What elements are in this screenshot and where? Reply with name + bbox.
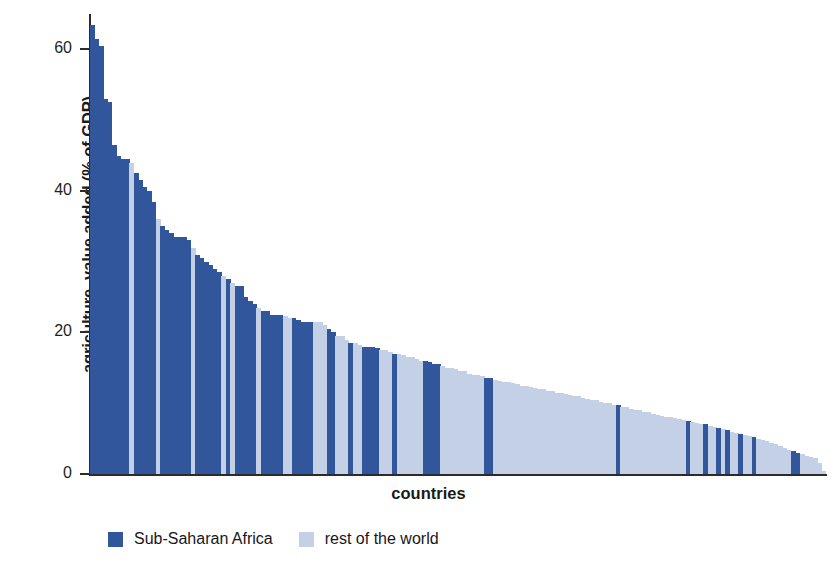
y-axis-tick-mark bbox=[80, 331, 90, 333]
x-axis-line bbox=[89, 474, 827, 476]
y-axis-tick-mark bbox=[80, 190, 90, 192]
legend-swatch-rest-of-the-world bbox=[299, 532, 314, 547]
legend-item-sub-saharan-africa: Sub-Saharan Africa bbox=[108, 530, 273, 548]
chart-legend: Sub-Saharan Africa rest of the world bbox=[108, 530, 439, 548]
legend-item-rest-of-the-world: rest of the world bbox=[299, 530, 439, 548]
x-axis-title: countries bbox=[0, 484, 839, 503]
y-axis-tick-mark bbox=[80, 473, 90, 475]
legend-label-rest-of-the-world: rest of the world bbox=[325, 530, 439, 548]
y-axis-tick-label-text: 40 bbox=[32, 182, 72, 198]
y-axis-tick-label: 60 bbox=[22, 40, 72, 56]
bar bbox=[822, 471, 827, 474]
y-axis-tick-label: 0 bbox=[22, 465, 72, 481]
chart-figure: agriculture, value added (% of GDP) 6040… bbox=[0, 0, 839, 567]
bar-series-container bbox=[90, 14, 826, 474]
y-axis-tick-label: 40 bbox=[22, 182, 72, 198]
y-axis-tick-mark bbox=[80, 48, 90, 50]
y-axis-tick-label-text: 0 bbox=[32, 465, 72, 481]
legend-swatch-sub-saharan-africa bbox=[108, 532, 123, 547]
legend-label-sub-saharan-africa: Sub-Saharan Africa bbox=[134, 530, 273, 548]
y-axis-tick-label: 20 bbox=[22, 323, 72, 339]
y-axis-tick-label-text: 20 bbox=[32, 323, 72, 339]
y-axis-tick-label-text: 60 bbox=[32, 40, 72, 56]
